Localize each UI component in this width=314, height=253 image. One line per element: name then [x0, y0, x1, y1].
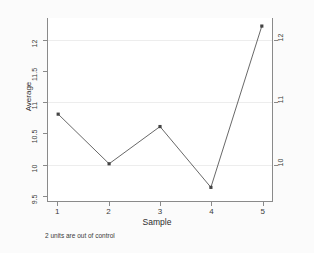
right-axis-tick-label: 10: [277, 158, 284, 166]
x-axis-tick-label: 3: [150, 207, 170, 216]
right-axis-tick-label: 11: [277, 96, 284, 103]
data-point-marker: [209, 186, 212, 189]
x-axis-tick: [160, 202, 161, 206]
x-axis-tick: [109, 202, 110, 206]
left-axis-tick-label: 10: [31, 164, 38, 172]
series-line: [58, 26, 262, 187]
x-axis-tick-label: 1: [47, 207, 67, 216]
data-point-marker: [57, 113, 60, 116]
data-point-marker: [158, 125, 161, 128]
left-axis-tick-label: 11.5: [31, 68, 38, 81]
left-axis-tick-label: 10.5: [31, 130, 38, 144]
x-axis-tick-label: 5: [253, 207, 273, 216]
x-axis-tick: [211, 202, 212, 206]
out-of-control-note: 2 units are out of control: [45, 232, 115, 239]
control-chart-figure: Average 9.51010.51111.512 101112 12345 S…: [0, 0, 314, 253]
x-axis-tick-label: 2: [99, 207, 119, 216]
left-axis-tick-label: 9.5: [31, 194, 38, 204]
x-axis-tick: [263, 202, 264, 206]
x-axis-tick: [57, 202, 58, 206]
plot-area: [47, 18, 273, 202]
data-point-marker: [260, 24, 263, 27]
right-axis-tick-label: 12: [277, 33, 284, 41]
left-axis-tick-label: 11: [31, 102, 38, 109]
data-point-marker: [108, 162, 111, 165]
data-series: [48, 18, 272, 201]
x-axis-tick-label: 4: [201, 207, 221, 216]
x-axis-title: Sample: [0, 217, 314, 227]
left-axis-tick-label: 12: [31, 39, 38, 47]
